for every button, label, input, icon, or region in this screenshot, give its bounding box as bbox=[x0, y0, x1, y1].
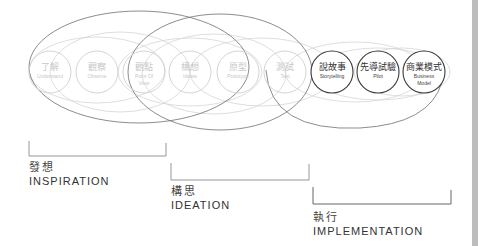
node-label-en: Storytelling bbox=[312, 73, 352, 80]
node-label-zh: 了解 bbox=[30, 62, 70, 73]
implementation-bracket bbox=[313, 187, 451, 204]
node-label-en: Business bbox=[404, 73, 444, 80]
node-label-zh: 測試 bbox=[265, 62, 305, 73]
node-label-en-line2: Model bbox=[404, 80, 444, 87]
node-label-en: Prototype bbox=[218, 73, 258, 80]
node-label-en-line2: View bbox=[124, 80, 164, 87]
node-label-zh: 構想 bbox=[170, 62, 210, 73]
phase-label-zh: 發想 bbox=[29, 161, 109, 174]
node-storytelling: 說故事 Storytelling bbox=[312, 62, 352, 80]
node-label-zh: 說故事 bbox=[312, 62, 352, 73]
node-label-zh: 先導試驗 bbox=[358, 62, 398, 73]
design-process-diagram bbox=[0, 0, 478, 246]
node-label-en: Point Of bbox=[124, 73, 164, 80]
phase-label-en: IDEATION bbox=[171, 198, 230, 212]
page-edge-bar bbox=[472, 0, 478, 246]
node-label-zh: 觀察 bbox=[77, 62, 117, 73]
node-ideate: 構想 Ideate bbox=[170, 62, 210, 80]
node-point-of-view: 觀點 Point Of View bbox=[124, 62, 164, 87]
node-label-en: Understand bbox=[30, 73, 70, 80]
node-label-en: Observe bbox=[77, 73, 117, 80]
node-business-model: 商業模式 Business Model bbox=[404, 62, 444, 87]
node-label-zh: 觀點 bbox=[124, 62, 164, 73]
phase-label-en: IMPLEMENTATION bbox=[313, 224, 423, 238]
phase-label-zh: 構思 bbox=[171, 185, 230, 198]
inspiration-bracket bbox=[29, 141, 166, 156]
node-label-en: Ideate bbox=[170, 73, 210, 80]
phase-implementation: 執行 IMPLEMENTATION bbox=[313, 211, 423, 238]
phase-inspiration: 發想 INSPIRATION bbox=[29, 161, 109, 188]
node-prototype: 原型 Prototype bbox=[218, 62, 258, 80]
node-test: 測試 Test bbox=[265, 62, 305, 80]
node-observe: 觀察 Observe bbox=[77, 62, 117, 80]
node-understand: 了解 Understand bbox=[30, 62, 70, 80]
ideation-bracket bbox=[171, 163, 309, 180]
node-pilot: 先導試驗 Pilot bbox=[358, 62, 398, 80]
node-label-zh: 原型 bbox=[218, 62, 258, 73]
node-label-en: Test bbox=[265, 73, 305, 80]
node-label-zh: 商業模式 bbox=[404, 62, 444, 73]
phase-ideation: 構思 IDEATION bbox=[171, 185, 230, 212]
node-label-en: Pilot bbox=[358, 73, 398, 80]
phase-label-zh: 執行 bbox=[313, 211, 423, 224]
phase-label-en: INSPIRATION bbox=[29, 174, 109, 188]
